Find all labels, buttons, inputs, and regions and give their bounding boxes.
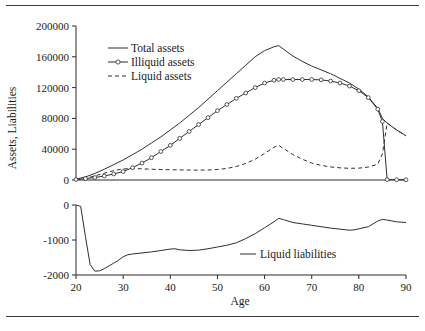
upper-panel-y-tick-labels: 04000080000120000160000200000 [36, 20, 70, 186]
illiquid-assets-marker [277, 78, 281, 82]
illiquid-assets-marker [102, 174, 106, 178]
upper-y-tick-label: 40000 [42, 143, 70, 155]
illiquid-assets-marker [121, 170, 125, 174]
illiquid-assets-marker [131, 166, 135, 170]
legend-label-total-assets: Total assets [131, 42, 185, 54]
illiquid-assets-marker [338, 81, 342, 85]
illiquid-assets-marker [310, 78, 314, 82]
x-axis-title: Age [230, 295, 249, 308]
lower-x-tick-label: 80 [353, 281, 365, 293]
top-horizontal-rule [6, 5, 419, 6]
illiquid-assets-marker [381, 120, 385, 124]
illiquid-assets-marker [150, 156, 154, 160]
illiquid-assets-marker [216, 109, 220, 113]
illiquid-assets-marker [168, 143, 172, 147]
illiquid-assets-marker [225, 103, 229, 107]
lower-x-tick-label: 30 [118, 281, 130, 293]
upper-panel-legend: Total assetsIlliquid assetsLiquid assets [108, 42, 195, 83]
lower-panel-x-tick-labels: 2030405060708090 [71, 281, 413, 293]
illiquid-assets-marker [84, 177, 88, 181]
illiquid-assets-marker [74, 178, 78, 182]
lower-x-tick-label: 70 [306, 281, 318, 293]
legend-label-liquid-assets: Liquid assets [131, 70, 192, 83]
liquid-liabilities-line [76, 205, 406, 271]
illiquid-assets-marker [178, 137, 182, 141]
lower-x-tick-label: 60 [259, 281, 271, 293]
lower-y-tick-label: -1000 [43, 234, 69, 246]
illiquid-assets-marker [348, 84, 352, 88]
illiquid-assets-marker [93, 176, 97, 180]
illiquid-assets-line [76, 80, 406, 180]
illiquid-assets-marker [357, 89, 361, 93]
upper-y-tick-label: 200000 [36, 20, 70, 32]
legend-label-liquid-liabilities: Liquid liabilities [260, 248, 337, 261]
illiquid-assets-marker [404, 178, 408, 182]
lower-y-tick-label: -2000 [43, 269, 69, 281]
upper-y-tick-label: 80000 [42, 112, 70, 124]
illiquid-assets-marker [329, 79, 333, 83]
illiquid-assets-marker [197, 123, 201, 127]
illiquid-assets-marker [272, 78, 276, 82]
lower-x-tick-label: 90 [401, 281, 413, 293]
total-assets-line [76, 46, 406, 180]
lower-x-tick-label: 50 [212, 281, 224, 293]
legend-marker-illiquid-assets [116, 60, 120, 64]
lower-panel-legend: Liquid liabilities [240, 248, 337, 261]
illiquid-assets-marker [140, 161, 144, 165]
illiquid-assets-markers [74, 78, 408, 182]
upper-y-tick-label: 0 [64, 174, 70, 186]
lower-panel: -2000-10000 2030405060708090 [43, 199, 412, 293]
illiquid-assets-marker [112, 172, 116, 176]
illiquid-assets-marker [187, 130, 191, 134]
lower-x-tick-label: 20 [71, 281, 83, 293]
illiquid-assets-marker [244, 91, 248, 95]
illiquid-assets-marker [206, 116, 210, 120]
illiquid-assets-marker [234, 96, 238, 100]
illiquid-assets-marker [366, 96, 370, 100]
bottom-horizontal-rule [6, 316, 419, 317]
illiquid-assets-marker [395, 178, 399, 182]
lower-panel-series [76, 205, 406, 271]
y-axis-title: Assets, Liabilities [6, 86, 19, 169]
lower-panel-y-tick-labels: -2000-10000 [43, 199, 69, 281]
illiquid-assets-marker [319, 78, 323, 82]
illiquid-assets-marker [300, 78, 304, 82]
upper-panel: 04000080000120000160000200000 [36, 20, 408, 186]
figure-container: 04000080000120000160000200000 Assets, Li… [0, 0, 425, 331]
upper-y-tick-label: 120000 [36, 82, 70, 94]
illiquid-assets-marker [253, 86, 257, 90]
lower-y-tick-label: 0 [64, 199, 70, 211]
illiquid-assets-marker [376, 107, 380, 111]
legend-label-illiquid-assets: Illiquid assets [131, 56, 195, 69]
lower-x-tick-label: 40 [165, 281, 177, 293]
illiquid-assets-marker [263, 81, 267, 85]
illiquid-assets-marker [282, 78, 286, 82]
upper-y-tick-label: 160000 [36, 51, 70, 63]
liquid-assets-line [76, 123, 406, 180]
upper-panel-axes [72, 26, 406, 180]
chart-svg: 04000080000120000160000200000 Assets, Li… [0, 0, 425, 331]
illiquid-assets-marker [291, 78, 295, 82]
illiquid-assets-marker [159, 150, 163, 154]
illiquid-assets-marker [385, 178, 389, 182]
upper-panel-series [76, 46, 406, 180]
